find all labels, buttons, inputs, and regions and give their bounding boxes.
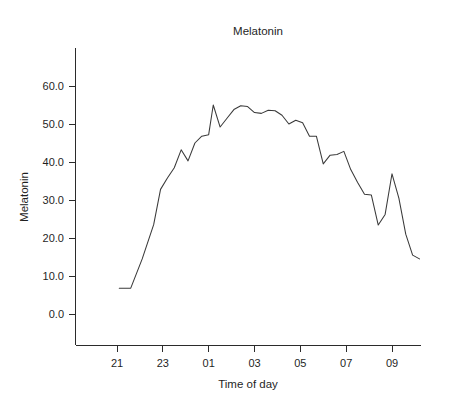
x-axis-tick-label: 09 [386,357,398,369]
y-axis-tick-label: 50.0 [43,118,64,130]
y-axis-title: Melatonin [18,172,30,222]
x-axis-tick-label: 05 [294,357,306,369]
chart-canvas: Melatonin 0.010.020.030.040.050.060.0 21… [0,0,471,413]
x-axis-tick-label: 03 [248,357,260,369]
y-axis-tick-label: 10.0 [43,270,64,282]
y-axis-tick-label: 30.0 [43,194,64,206]
x-axis-tick-label: 01 [203,357,215,369]
x-axis-ticks: 21230103050709 [111,346,398,370]
chart-title: Melatonin [233,25,283,37]
melatonin-series-line [119,105,419,288]
x-axis-tick-label: 23 [157,357,169,369]
y-axis-tick-label: 40.0 [43,156,64,168]
x-axis-tick-label: 07 [340,357,352,369]
x-axis-title: Time of day [218,378,278,390]
x-axis-tick-label: 21 [111,357,123,369]
y-axis-tick-label: 20.0 [43,232,64,244]
y-axis-tick-label: 60.0 [43,80,64,92]
y-axis-ticks: 0.010.020.030.040.050.060.0 [43,80,76,320]
y-axis-tick-label: 0.0 [49,308,64,320]
melatonin-chart-figure: Melatonin 0.010.020.030.040.050.060.0 21… [0,0,471,413]
